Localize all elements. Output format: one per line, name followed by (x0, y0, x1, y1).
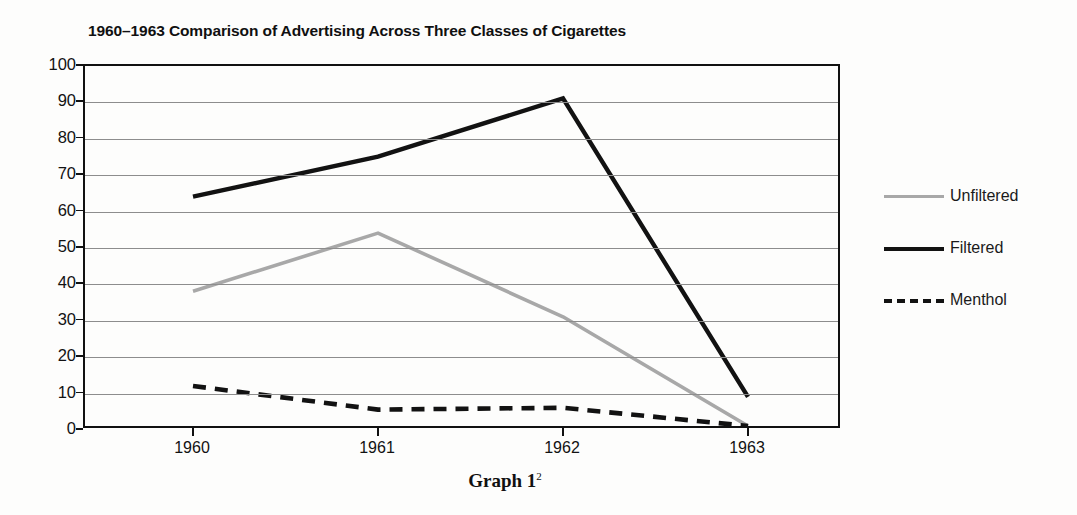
y-tickmark (76, 428, 83, 430)
figure-caption: Graph 12 (0, 470, 1010, 492)
legend-label: Filtered (950, 240, 1003, 256)
x-tick-label: 1961 (332, 440, 422, 456)
x-tick-label: 1960 (147, 440, 237, 456)
y-tickmark (76, 210, 83, 212)
y-tick-label: 50 (30, 238, 76, 255)
chart-figure: 1960–1963 Comparison of Advertising Acro… (0, 0, 1077, 515)
chart-legend: Unfiltered Filtered Menthol (884, 188, 1069, 344)
y-tickmark (76, 282, 83, 284)
y-axis-labels: 100 90 80 70 60 50 40 30 20 10 0 (20, 64, 76, 428)
figure-caption-text: Graph 1 (468, 470, 536, 491)
x-tick-label: 1963 (702, 440, 792, 456)
x-tickmark (747, 428, 749, 436)
y-tick-label: 90 (30, 92, 76, 109)
legend-swatch-line-icon (884, 299, 944, 309)
gridline (85, 175, 838, 176)
legend-swatch-line-icon (884, 247, 944, 257)
gridline (85, 357, 838, 358)
gridline (85, 139, 838, 140)
y-tick-label: 0 (30, 420, 76, 437)
legend-label: Menthol (950, 292, 1007, 308)
x-axis-labels: 1960 1961 1962 1963 (83, 440, 840, 466)
gridline (85, 212, 838, 213)
y-tickmark (76, 392, 83, 394)
y-tickmark (76, 246, 83, 248)
plot-area (83, 64, 840, 428)
y-tickmark (76, 137, 83, 139)
x-tickmark (562, 428, 564, 436)
y-tickmark (76, 319, 83, 321)
gridline (85, 102, 838, 103)
legend-label: Unfiltered (950, 188, 1018, 204)
gridline (85, 321, 838, 322)
y-tick-label: 70 (30, 165, 76, 182)
y-tickmark (76, 355, 83, 357)
series-line-menthol (193, 386, 748, 426)
y-tick-label: 20 (30, 347, 76, 364)
y-tickmark (76, 64, 83, 66)
y-tickmark (76, 100, 83, 102)
x-tick-label: 1962 (517, 440, 607, 456)
gridline (85, 394, 838, 395)
legend-item-filtered: Filtered (884, 240, 1069, 292)
x-tickmark (192, 428, 194, 436)
y-tick-label: 60 (30, 201, 76, 218)
chart-title: 1960–1963 Comparison of Advertising Acro… (88, 22, 908, 40)
gridline (85, 284, 838, 285)
figure-caption-footnote-marker: 2 (536, 470, 542, 482)
legend-item-unfiltered: Unfiltered (884, 188, 1069, 240)
chart-series-layer (85, 66, 838, 426)
y-tick-label: 30 (30, 311, 76, 328)
gridline (85, 248, 838, 249)
y-tick-label: 80 (30, 129, 76, 146)
y-tickmark (76, 173, 83, 175)
x-tickmark (377, 428, 379, 436)
y-tick-label: 10 (30, 383, 76, 400)
legend-item-menthol: Menthol (884, 292, 1069, 344)
y-tick-label: 100 (30, 56, 76, 73)
y-tick-label: 40 (30, 274, 76, 291)
legend-swatch-line-icon (884, 195, 944, 204)
